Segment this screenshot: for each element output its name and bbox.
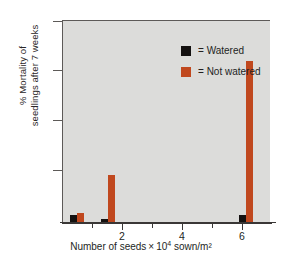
x-axis-title-prefix: Number of seeds	[70, 241, 146, 252]
x-tick-4	[182, 223, 183, 230]
y-axis-title-line2: seedlings after 7 weeks	[28, 6, 40, 146]
y-axis-title-line1: % Mortality of	[17, 46, 28, 105]
x-minor-tick-3	[152, 223, 153, 228]
legend-item-not-watered: = Not watered	[181, 66, 261, 77]
black-square-icon	[181, 46, 191, 56]
x-tick-6	[242, 223, 243, 230]
x-axis-title-exponent: 4	[167, 240, 171, 247]
multiplication-sign: ×	[146, 241, 156, 252]
x-axis-title-suffix: sown/m²	[174, 241, 212, 252]
legend-label-not-watered: = Not watered	[198, 66, 261, 77]
bar-not-watered-1.5	[108, 175, 115, 223]
mortality-bar-chart: % Mortality of seedlings after 7 weeks 8…	[0, 0, 282, 258]
y-axis-title: % Mortality of seedlings after 7 weeks	[17, 6, 40, 146]
y-tick-60	[53, 70, 62, 71]
legend-item-watered: = Watered	[181, 45, 261, 56]
x-minor-tick-5	[212, 223, 213, 228]
legend: = Watered = Not watered	[181, 45, 261, 87]
orange-square-icon	[181, 67, 191, 77]
plot-area: = Watered = Not watered	[62, 20, 270, 223]
x-axis-title: Number of seeds×104 sown/m²	[0, 240, 282, 252]
y-tick-40	[53, 120, 62, 121]
x-tick-2	[122, 223, 123, 230]
y-tick-20	[53, 170, 62, 171]
legend-label-watered: = Watered	[198, 45, 244, 56]
x-minor-tick-1	[92, 223, 93, 228]
x-axis-title-base: 10	[156, 241, 167, 252]
y-tick-80	[53, 21, 62, 22]
